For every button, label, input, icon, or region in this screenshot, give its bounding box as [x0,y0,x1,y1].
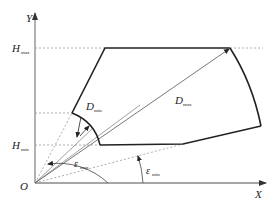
d-min-label: D [85,100,94,112]
eps-min-subscript: min [152,172,160,177]
h-min-label: H [11,139,21,151]
h-min-subscript: min [21,147,29,152]
x-axis-label: X [254,188,263,200]
ray-mid-2 [35,128,93,183]
eps-max-subscript: max [80,165,89,170]
origin-label: O [20,180,28,192]
d-min-subscript: min [94,108,102,113]
eps-min-label: ε [146,165,150,176]
d-min-arrow-out [80,126,89,136]
d-min-arrow-in [77,117,81,137]
ray-upper-dashed [35,113,72,183]
workspace-bottom [100,126,261,145]
ray-d-max [35,49,229,183]
workspace-diagram: Y X O H max H min D min D max ε max ε mi… [0,0,275,212]
h-max-subscript: max [21,50,30,55]
h-max-label: H [11,42,21,54]
eps-max-label: ε [74,158,78,169]
d-max-subscript: max [183,102,192,107]
eps-min-arc [138,156,143,183]
d-max-label: D [174,94,183,106]
d-max-arc [230,48,261,126]
y-axis-label: Y [26,12,34,24]
